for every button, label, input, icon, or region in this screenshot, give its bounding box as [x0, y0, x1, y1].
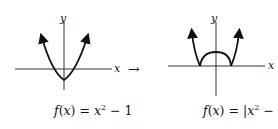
constant: − 1 — [259, 103, 278, 118]
left-formula: f(x) = x2 − 1 — [54, 101, 132, 118]
right-graph — [168, 22, 265, 96]
equals: = — [75, 103, 93, 118]
constant: − 1 — [106, 103, 132, 118]
right-y-axis-label: y — [211, 13, 217, 24]
var: x — [64, 103, 71, 118]
right-abs-curve-right-branch — [231, 33, 239, 66]
right-formula: f(x) = |x2 − 1| — [203, 101, 278, 118]
equals: = — [224, 103, 242, 118]
left-y-axis-label: y — [60, 13, 66, 24]
var: x — [213, 103, 220, 118]
right-abs-curve-left-branch — [192, 33, 200, 66]
transform-arrow: → — [128, 62, 140, 76]
right-x-axis-label: x — [268, 60, 274, 71]
left-x-axis-label: x — [114, 63, 120, 74]
base: x — [94, 103, 101, 118]
left-graph — [15, 22, 112, 90]
